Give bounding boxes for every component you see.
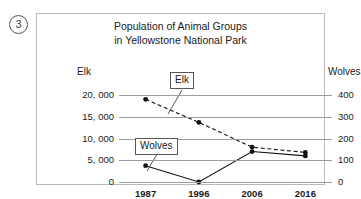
y-axis-tick-label-right: 300 bbox=[338, 112, 354, 122]
data-point-wolves bbox=[143, 163, 148, 168]
data-point-elk bbox=[196, 120, 201, 125]
y-axis-tick-label-left: 5, 000 bbox=[88, 155, 114, 165]
chart-frame: Population of Animal Groups in Yellowsto… bbox=[36, 13, 325, 185]
callout-leader-elk bbox=[168, 90, 182, 114]
right-axis-title: Wolves bbox=[328, 66, 361, 77]
gridline bbox=[119, 182, 332, 183]
x-axis-tick-label: 2016 bbox=[295, 189, 316, 199]
data-point-wolves bbox=[250, 149, 255, 154]
left-axis-title: Elk bbox=[77, 66, 91, 77]
y-axis-tick-label-left: 15, 000 bbox=[82, 112, 114, 122]
problem-number: 3 bbox=[9, 15, 28, 34]
callout-wolves: Wolves bbox=[135, 138, 178, 155]
y-axis-tick-label-right: 200 bbox=[338, 134, 354, 144]
x-axis-tick-label: 1996 bbox=[188, 189, 209, 199]
y-axis-tick-label-left: 0 bbox=[109, 177, 114, 187]
gridline bbox=[119, 95, 332, 96]
y-axis-tick-label-left: 20, 000 bbox=[82, 90, 114, 100]
chart-title-line-1: Population of Animal Groups bbox=[114, 20, 247, 32]
y-axis-tick-label-left: 10, 000 bbox=[82, 134, 114, 144]
chart-title-line-2: in Yellowstone National Park bbox=[37, 34, 324, 48]
y-axis-tick-label-right: 0 bbox=[338, 177, 343, 187]
gridline bbox=[119, 117, 332, 118]
data-point-elk bbox=[143, 97, 148, 102]
y-axis-tick-label-right: 400 bbox=[338, 90, 354, 100]
chart-title: Population of Animal Groups in Yellowsto… bbox=[37, 20, 324, 47]
y-axis-tick-label-right: 100 bbox=[338, 155, 354, 165]
x-axis-tick-label: 1987 bbox=[135, 189, 156, 199]
data-point-elk bbox=[250, 145, 255, 150]
series-line-wolves bbox=[146, 152, 306, 182]
data-point-wolves bbox=[303, 154, 308, 159]
callout-elk: Elk bbox=[170, 72, 194, 89]
x-axis-tick-label: 2006 bbox=[242, 189, 263, 199]
gridline bbox=[119, 160, 332, 161]
